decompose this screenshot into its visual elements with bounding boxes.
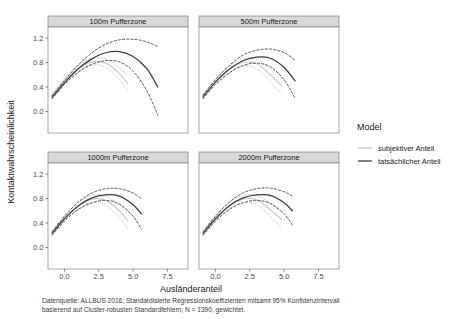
legend-entry[interactable]: subjektiver Anteil <box>358 144 435 153</box>
figure-caption: Datenquelle: ALLBUS 2016; Standardisiert… <box>42 297 340 314</box>
facet-panel: 1000m Pufferzone0.00.40.81.20.02.55.07.5 <box>33 152 188 281</box>
y-tick-label: 0.8 <box>33 58 43 67</box>
facet-panel: 500m Pufferzone <box>199 16 339 133</box>
x-tick-label: 2.5 <box>94 272 104 281</box>
x-axis-title: Ausländeranteil <box>160 284 222 294</box>
panel-strip-label: 1000m Pufferzone <box>87 153 148 162</box>
panel-strip-label: 500m Pufferzone <box>241 17 298 26</box>
legend-entry-label: tatsächlicher Anteil <box>378 157 441 166</box>
x-tick-label: 5.0 <box>279 272 289 281</box>
chart-legend: Model subjektiver Anteiltatsächlicher An… <box>357 122 441 166</box>
y-tick-label: 0.4 <box>33 219 43 228</box>
caption-line-1: Datenquelle: ALLBUS 2016; Standardisiert… <box>42 297 340 305</box>
panels-group: 100m Pufferzone0.00.40.81.2500m Pufferzo… <box>33 16 339 281</box>
y-tick-label: 0.8 <box>33 194 43 203</box>
x-tick-label: 5.0 <box>128 272 138 281</box>
x-tick-label: 2.5 <box>245 272 255 281</box>
y-axis-title: Kontaktwahrscheinlichkeit <box>6 100 16 204</box>
y-tick-label: 0.0 <box>33 107 43 116</box>
facet-panel: 100m Pufferzone0.00.40.81.2 <box>33 16 188 133</box>
legend-title: Model <box>357 122 382 132</box>
y-tick-label: 1.2 <box>33 34 43 43</box>
facet-panel: 2000m Pufferzone0.02.55.07.5 <box>199 152 339 281</box>
legend-entry-label: subjektiver Anteil <box>378 144 435 153</box>
caption-line-2: basierend auf Cluster-robusten Standardf… <box>42 306 245 314</box>
x-tick-label: 7.5 <box>313 272 323 281</box>
x-tick-label: 0.0 <box>210 272 220 281</box>
panel-strip-label: 2000m Pufferzone <box>238 153 299 162</box>
panel-strip-label: 100m Pufferzone <box>90 17 147 26</box>
y-tick-label: 1.2 <box>33 170 43 179</box>
x-tick-label: 0.0 <box>59 272 69 281</box>
x-tick-label: 7.5 <box>162 272 172 281</box>
faceted-line-chart: 100m Pufferzone0.00.40.81.2500m Pufferzo… <box>0 0 459 319</box>
legend-entries: subjektiver Anteiltatsächlicher Anteil <box>358 144 441 166</box>
y-tick-label: 0.4 <box>33 83 43 92</box>
legend-entry[interactable]: tatsächlicher Anteil <box>358 157 441 166</box>
y-tick-label: 0.0 <box>33 243 43 252</box>
